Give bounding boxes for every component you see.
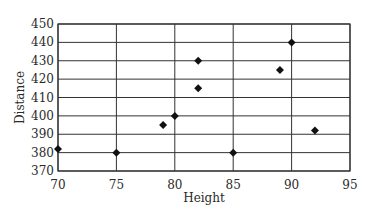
plot-grid [58,24,350,171]
y-tick-label: 380 [31,146,54,160]
diamond-marker [112,149,120,157]
x-tick-label: 95 [342,178,357,192]
y-tick-label: 440 [31,35,54,49]
y-tick-label: 390 [31,127,54,141]
x-tick-label: 70 [50,178,65,192]
diamond-marker [194,57,202,65]
y-tick-label: 450 [31,17,54,31]
diamond-marker [171,112,179,120]
y-tick-label: 410 [31,91,54,105]
y-tick-label: 400 [31,109,54,123]
x-axis-label: Height [183,191,225,205]
y-tick-label: 420 [31,72,54,86]
x-tick-label: 85 [226,178,241,192]
y-tick-label: 370 [31,164,54,178]
diamond-marker [54,145,62,153]
diamond-marker [276,66,284,74]
diamond-marker [288,38,296,46]
diamond-marker [229,149,237,157]
x-tick-label: 90 [284,178,299,192]
y-axis-label: Distance [13,71,27,124]
diamond-marker [194,84,202,92]
diamond-marker [159,121,167,129]
x-tick-label: 80 [167,178,182,192]
y-axis-ticks: 370380390400410420430440450 [31,17,54,178]
scatter-chart: 707580859095 370380390400410420430440450… [0,0,365,216]
y-tick-label: 430 [31,54,54,68]
x-axis-ticks: 707580859095 [50,178,357,192]
diamond-marker [311,127,319,135]
x-tick-label: 75 [109,178,124,192]
